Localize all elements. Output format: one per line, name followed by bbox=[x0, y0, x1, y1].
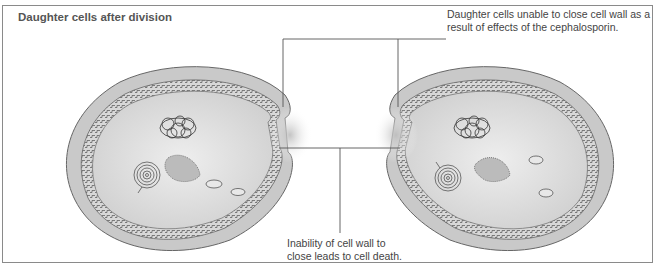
vesicle-icon bbox=[231, 189, 245, 196]
vesicle-icon bbox=[529, 156, 543, 164]
vesicle-icon bbox=[206, 180, 222, 188]
daughter-cells-diagram bbox=[0, 0, 655, 270]
vesicle-icon bbox=[539, 189, 553, 197]
left-daughter-cell bbox=[66, 67, 312, 251]
right-daughter-cell bbox=[374, 67, 614, 251]
